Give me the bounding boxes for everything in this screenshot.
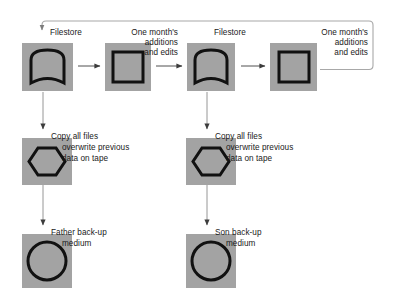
label-copy-right-line2: overwrite previous [215,143,293,153]
label-month-additions-1-line3: and edits [100,48,178,58]
label-son-line2: medium [215,239,255,249]
label-copy-left-line2: overwrite previous [51,143,129,153]
label-filestore-2: Filestore [214,28,246,38]
label-month-additions-2-line1: One month's [290,28,368,38]
label-month-additions-2-line3: and edits [290,48,368,58]
label-month-additions-2-line2: additions [290,38,368,48]
label-son-line1: Son back-up [215,228,262,238]
label-month-additions-1-line2: additions [100,38,178,48]
label-father-line1: Father back-up [51,228,107,238]
label-copy-left-line1: Copy all files [51,132,98,142]
node-filestore-1[interactable] [22,43,73,91]
label-copy-right-line1: Copy all files [215,132,262,142]
label-filestore-1: Filestore [50,28,82,38]
label-copy-left-line3: data on tape [51,154,108,164]
label-father-line2: medium [51,239,91,249]
filestore-arch-icon [22,43,73,91]
node-filestore-2[interactable] [187,43,235,91]
label-copy-right-line3: data on tape [215,154,272,164]
filestore-arch-icon [187,43,235,91]
backup-cycle-diagram: Filestore One month's additions and edit… [0,0,398,303]
label-month-additions-1-line1: One month's [100,28,178,38]
